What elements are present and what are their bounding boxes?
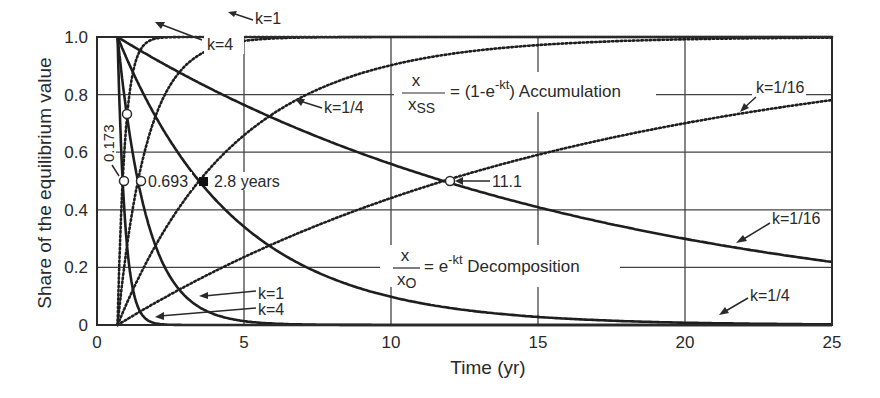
accumulation-formula: x xSS = (1-e-kt) Accumulation <box>394 71 656 116</box>
x-tick-label: 15 <box>529 333 548 352</box>
x-axis-label: Time (yr) <box>450 357 525 378</box>
x-tick-label: 20 <box>676 333 695 352</box>
marker-acc-k4 <box>123 110 132 119</box>
marker-0693 <box>137 177 146 186</box>
label-k14-decomposition: k=1/4 <box>750 287 790 304</box>
marker-28 <box>199 177 208 186</box>
y-tick-label: 0.2 <box>64 258 88 277</box>
y-axis-ticks: 00.20.40.60.81.0 <box>64 28 88 335</box>
label-k1-accumulation: k=1 <box>255 10 281 27</box>
y-tick-label: 1.0 <box>64 28 88 47</box>
label-k116-accumulation: k=1/16 <box>756 79 805 96</box>
label-0693: 0.693 <box>148 173 188 190</box>
decay-accumulation-chart: 00.20.40.60.81.0 0510152025 Share of the… <box>0 0 880 398</box>
curve-decomposition-k0_0625 <box>118 37 832 262</box>
label-0173: 0.173 <box>100 124 117 162</box>
marker-0173 <box>120 177 129 186</box>
y-tick-label: 0.6 <box>64 143 88 162</box>
label-k1-decomposition: k=1 <box>258 285 284 302</box>
label-k4-accumulation: k=4 <box>207 36 233 53</box>
marker-111 <box>446 177 455 186</box>
formula-numerator: x <box>401 246 410 265</box>
x-tick-label: 25 <box>823 333 842 352</box>
decomposition-formula: x xO = e-kt Decomposition <box>380 245 620 291</box>
label-k14-accumulation: k=1/4 <box>324 99 364 116</box>
y-tick-label: 0.8 <box>64 86 88 105</box>
x-tick-label: 5 <box>239 333 248 352</box>
label-28-years: 2.8 years <box>214 173 280 190</box>
formula-numerator: x <box>412 71 421 90</box>
curve-accumulation-k0_0625 <box>118 100 832 325</box>
y-tick-label: 0 <box>79 316 88 335</box>
label-k116-decomposition: k=1/16 <box>772 210 821 227</box>
half-life-markers: 0.693 2.8 years 11.1 0.173 <box>98 110 526 191</box>
x-tick-label: 10 <box>382 333 401 352</box>
label-k4-decomposition: k=4 <box>258 301 284 318</box>
x-tick-label: 0 <box>92 333 101 352</box>
label-111: 11.1 <box>492 173 522 190</box>
y-axis-label: Share of the equilibrium value <box>34 57 55 308</box>
y-tick-label: 0.4 <box>64 201 88 220</box>
x-axis-ticks: 0510152025 <box>92 333 841 352</box>
